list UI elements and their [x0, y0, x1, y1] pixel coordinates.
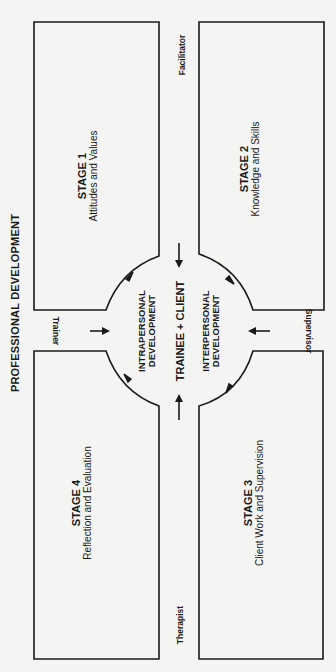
role-therapist: Therapist	[175, 606, 185, 644]
stage-4-label: STAGE 4 Reflection and Evaluation	[71, 446, 93, 559]
stage-2-number: STAGE 2	[239, 121, 250, 216]
stage-1-text: Attitudes and Values	[88, 131, 99, 222]
stage-4-box	[34, 351, 159, 659]
role-facilitator: Facilitator	[177, 35, 187, 76]
stage-3-text: Client Work and Supervision	[254, 440, 265, 566]
stage-2-label: STAGE 2 Knowledge and Skills	[239, 121, 261, 216]
stage-3-label: STAGE 3 Client Work and Supervision	[243, 440, 265, 566]
stage-4-text: Reflection and Evaluation	[82, 446, 93, 559]
stage-3-number: STAGE 3	[243, 440, 254, 566]
stage-1-number: STAGE 1	[77, 131, 88, 222]
interpersonal-line2: DEVELOPMENT	[211, 290, 221, 371]
arc-arrow-stage4-icon	[124, 374, 131, 382]
role-trainer: Trainer	[51, 317, 61, 345]
intrapersonal-development-label: INTRAPERSONAL DEVELOPMENT	[137, 290, 157, 372]
arc-arrow-stage2-icon	[226, 276, 234, 284]
center-title: TRAINEE + CLIENT	[174, 281, 186, 382]
stage-2-text: Knowledge and Skills	[250, 121, 261, 216]
stage-2-box	[199, 22, 324, 310]
interpersonal-development-label: INTERPERSONAL DEVELOPMENT	[201, 290, 221, 371]
stage-4-number: STAGE 4	[71, 446, 82, 559]
diagram-title: PROFESSIONAL DEVELOPMENT	[9, 214, 21, 392]
stage-1-label: STAGE 1 Attitudes and Values	[77, 131, 99, 222]
role-supervisor: Supervisor	[304, 309, 314, 353]
intrapersonal-line2: DEVELOPMENT	[147, 290, 157, 372]
